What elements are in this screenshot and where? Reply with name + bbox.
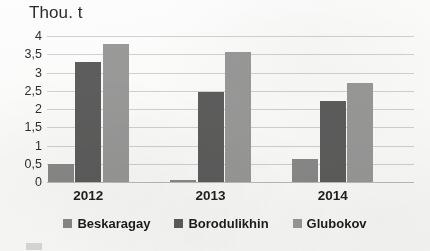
legend-label: Beskaragay bbox=[77, 216, 150, 231]
bar-series-layer bbox=[47, 36, 414, 182]
legend-item-borodulikhin[interactable]: Borodulikhin bbox=[174, 216, 268, 231]
y-tick-label: 2 bbox=[35, 102, 42, 116]
legend-item-glubokov[interactable]: Glubokov bbox=[293, 216, 367, 231]
y-tick-label: 0 bbox=[35, 175, 42, 189]
legend-swatch-icon bbox=[293, 219, 302, 228]
bar-glubokov-2012 bbox=[103, 44, 129, 182]
bar-beskaragay-2012 bbox=[48, 164, 74, 182]
bar-beskaragay-2013 bbox=[170, 180, 196, 182]
legend-label: Borodulikhin bbox=[188, 216, 268, 231]
y-tick-label: 0,5 bbox=[25, 157, 42, 171]
legend-label: Glubokov bbox=[307, 216, 367, 231]
legend-swatch-icon bbox=[174, 219, 183, 228]
bar-borodulikhin-2014 bbox=[320, 101, 346, 182]
bar-chart: Thou. t 43,532,521,510,50 201220132014 B… bbox=[0, 0, 430, 251]
x-group-label-2014: 2014 bbox=[318, 188, 348, 203]
chart-legend: BeskaragayBorodulikhinGlubokov bbox=[0, 216, 430, 231]
plot-area: 43,532,521,510,50 bbox=[47, 36, 414, 182]
y-tick-label: 4 bbox=[35, 29, 42, 43]
bar-borodulikhin-2012 bbox=[75, 62, 101, 182]
bar-glubokov-2013 bbox=[225, 52, 251, 182]
bar-glubokov-2014 bbox=[347, 83, 373, 182]
y-tick-label: 1,5 bbox=[25, 120, 42, 134]
x-group-label-2012: 2012 bbox=[73, 188, 103, 203]
caption-residue-mark bbox=[26, 243, 42, 250]
y-tick-label: 3,5 bbox=[25, 47, 42, 61]
bar-borodulikhin-2013 bbox=[198, 92, 224, 182]
y-tick-label: 1 bbox=[35, 139, 42, 153]
bar-beskaragay-2014 bbox=[292, 159, 318, 182]
gridline-0 bbox=[47, 182, 414, 183]
x-group-label-2013: 2013 bbox=[195, 188, 225, 203]
y-tick-label: 3 bbox=[35, 66, 42, 80]
legend-item-beskaragay[interactable]: Beskaragay bbox=[63, 216, 150, 231]
legend-swatch-icon bbox=[63, 219, 72, 228]
chart-title: Thou. t bbox=[29, 3, 83, 23]
y-tick-label: 2,5 bbox=[25, 84, 42, 98]
